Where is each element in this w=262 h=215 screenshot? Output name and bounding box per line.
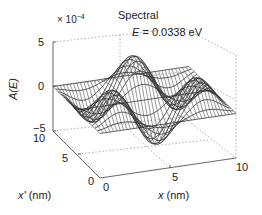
chart-title: Spectral xyxy=(118,10,158,21)
z-tick-0: 0 xyxy=(38,81,44,92)
z-axis-label: A(E) xyxy=(8,78,19,100)
z-tick-5: 5 xyxy=(38,37,44,48)
box-grid xyxy=(53,28,236,168)
xprime-unit: (nm) xyxy=(29,189,52,201)
x-tick-0: 0 xyxy=(103,182,109,193)
z-multiplier-exp: −4 xyxy=(77,13,85,20)
surface-mesh xyxy=(53,56,236,145)
x-axis-label: x (nm) xyxy=(158,190,189,201)
z-multiplier-base: × 10 xyxy=(57,14,77,25)
x-tick-5: 5 xyxy=(172,172,178,183)
xprime-axis xyxy=(53,131,100,178)
energy-value: = 0.0338 eV xyxy=(142,26,202,38)
x-axis xyxy=(100,158,236,178)
xprime-tick-5: 5 xyxy=(62,153,68,164)
xprime-tick-10: 10 xyxy=(33,133,45,144)
energy-symbol: E xyxy=(132,26,139,38)
xprime-tick-0: 0 xyxy=(88,176,94,187)
xprime-axis-label: x' (nm) xyxy=(18,190,51,201)
surface-plot xyxy=(0,0,262,215)
energy-annotation: E = 0.0338 eV xyxy=(132,27,202,38)
x-var: x xyxy=(158,189,164,201)
x-unit: (nm) xyxy=(167,189,190,201)
z-multiplier: × 10−4 xyxy=(57,13,85,25)
xprime-var: x' xyxy=(18,189,26,201)
x-tick-10: 10 xyxy=(236,162,248,173)
